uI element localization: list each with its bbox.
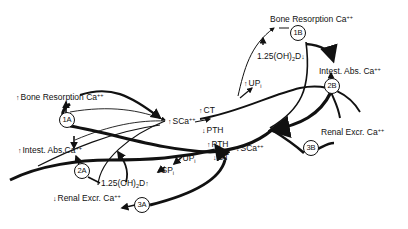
up-arrow-icon: ↑ [199,107,203,114]
label-intest-abs-left: ↑Intest. Abs.Ca++ [18,143,82,156]
down-arrow-icon: ↓ [236,145,240,152]
down-arrow-icon: ↓ [157,167,161,174]
node-3a: 3A [134,197,150,213]
label-up-upper: ↑UPi [244,78,262,91]
up-arrow-icon: ↑ [168,118,172,125]
label-pth-upper: ↓PTH [202,125,224,136]
label-vitd-upper: 1.25(OH)2D↓ [257,51,306,64]
label-sca-lower: ↓SCa++ [236,141,263,154]
label-bone-resorption-left: ↑Bone Resorption Ca++ [16,90,103,103]
node-2b: 2B [324,78,340,94]
down-arrow-icon: ↓ [178,155,182,162]
calcium-homeostasis-diagram: 1A 2A 3A 1B 2B 3B ↑Bone Resorption Ca++ … [0,0,408,229]
up-arrow-icon: ↑ [16,94,20,101]
label-vitd-lower: 1.25(OH)2D↑ [101,178,150,191]
up-arrow-icon: ↑ [18,147,22,154]
label-ct-lower: ↓CT [213,152,229,163]
up-arrow-icon: ↑ [145,180,149,187]
down-arrow-icon: ↓ [213,154,217,161]
down-arrow-icon: ↓ [53,195,57,202]
node-1a: 1A [59,112,75,128]
node-1b: 1B [290,25,306,41]
down-arrow-icon: ↓ [202,127,206,134]
up-arrow-icon: ↑ [207,141,211,148]
node-3b: 3B [303,140,319,156]
label-bone-resorption-right: Bone Resorption Ca++ [270,12,353,24]
label-sca-upper: ↑SCa++ [168,114,195,127]
label-up-lower: ↓UPi [178,153,196,166]
label-intest-abs-right: Intest. Abs. Ca++ [319,64,381,76]
node-2a: 2A [74,163,90,179]
label-ct-upper: ↑CT [199,105,215,116]
label-renal-excr-left: ↓Renal Excr. Ca++ [53,191,121,204]
label-pth-lower: ↑PTH [207,139,229,150]
up-arrow-icon: ↑ [244,80,248,87]
label-sp-lower: ↓SPi [157,165,174,178]
label-renal-excr-right: Renal Excr. Ca++ [321,125,384,137]
down-arrow-icon: ↓ [301,53,305,60]
